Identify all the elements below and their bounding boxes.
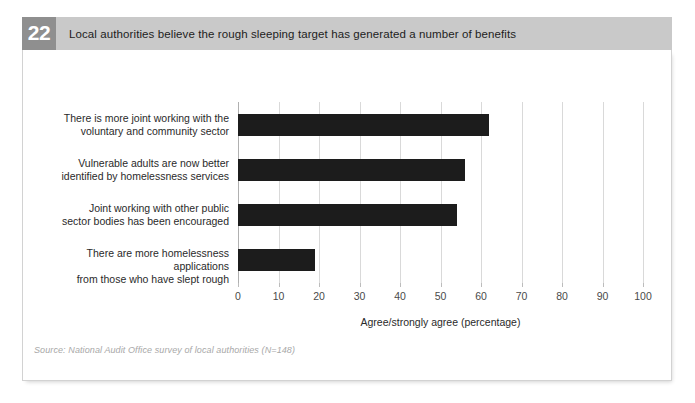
category-label-line: identified by homelessness services (33, 170, 229, 183)
x-tick-label-100: 100 (634, 290, 652, 302)
category-label: Joint working with other publicsector bo… (33, 202, 229, 228)
category-label-line: from those who have slept rough (33, 273, 229, 286)
category-label: Vulnerable adults are now betteridentifi… (33, 157, 229, 183)
gridline-70 (522, 102, 523, 283)
figure-panel: 22 Local authorities believe the rough s… (22, 17, 672, 381)
category-label-line: Vulnerable adults are now better (33, 157, 229, 170)
x-tick-60 (481, 283, 482, 287)
category-label: There is more joint working with thevolu… (33, 112, 229, 138)
figure-body: 0102030405060708090100There is more join… (22, 50, 672, 381)
x-tick-40 (400, 283, 401, 287)
gridline-80 (562, 102, 563, 283)
source-note: Source: National Audit Office survey of … (34, 345, 295, 355)
x-tick-label-80: 80 (556, 290, 568, 302)
x-tick-10 (279, 283, 280, 287)
category-label-line: There are more homelessness applications (33, 247, 229, 273)
bar (238, 114, 489, 136)
x-tick-label-70: 70 (516, 290, 528, 302)
bar (238, 204, 457, 226)
figure-number-badge: 22 (22, 17, 56, 50)
x-tick-50 (441, 283, 442, 287)
x-tick-90 (603, 283, 604, 287)
x-tick-label-0: 0 (235, 290, 241, 302)
gridline-90 (603, 102, 604, 283)
bar (238, 249, 315, 271)
category-label: There are more homelessness applications… (33, 247, 229, 286)
chart-plot-area: 0102030405060708090100There is more join… (23, 50, 671, 380)
x-tick-80 (562, 283, 563, 287)
x-tick-20 (319, 283, 320, 287)
x-tick-label-50: 50 (435, 290, 447, 302)
x-tick-0 (238, 283, 239, 287)
figure-title: Local authorities believe the rough slee… (56, 17, 672, 50)
x-tick-label-60: 60 (475, 290, 487, 302)
x-tick-label-20: 20 (313, 290, 325, 302)
x-tick-label-10: 10 (273, 290, 285, 302)
x-tick-label-90: 90 (597, 290, 609, 302)
figure-header: 22 Local authorities believe the rough s… (22, 17, 672, 50)
category-label-line: sector bodies has been encouraged (33, 215, 229, 228)
x-tick-label-40: 40 (394, 290, 406, 302)
gridline-100 (643, 102, 644, 283)
category-label-line: There is more joint working with the (33, 112, 229, 125)
x-tick-100 (643, 283, 644, 287)
x-tick-30 (360, 283, 361, 287)
x-tick-label-30: 30 (354, 290, 366, 302)
category-label-line: voluntary and community sector (33, 125, 229, 138)
category-label-line: Joint working with other public (33, 202, 229, 215)
bar (238, 159, 465, 181)
x-axis-title: Agree/strongly agree (percentage) (238, 316, 643, 328)
x-tick-70 (522, 283, 523, 287)
